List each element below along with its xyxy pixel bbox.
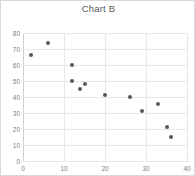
scatter-point xyxy=(128,95,132,99)
x-axis-tick-label: 0 xyxy=(14,165,32,173)
gridline-horizontal xyxy=(23,161,187,162)
scatter-point xyxy=(103,93,107,97)
x-axis-tick-label: 40 xyxy=(178,165,195,173)
scatter-point xyxy=(70,63,74,67)
scatter-point xyxy=(140,109,144,113)
scatter-point xyxy=(169,135,173,139)
y-axis-tick-label: 80 xyxy=(4,30,20,37)
y-axis-tick-label: 10 xyxy=(4,142,20,149)
gridline-vertical xyxy=(187,33,188,161)
chart-title: Chart B xyxy=(1,3,195,14)
scatter-point xyxy=(78,87,82,91)
gridline-vertical xyxy=(105,33,106,161)
y-axis-tick-label: 70 xyxy=(4,46,20,53)
y-axis-tick-label: 30 xyxy=(4,110,20,117)
x-axis-tick-label: 30 xyxy=(137,165,155,173)
y-axis-tick-labels: 01020304050607080 xyxy=(1,1,20,176)
scatter-point xyxy=(70,79,74,83)
scatter-point xyxy=(156,102,160,106)
x-axis-tick-label: 20 xyxy=(96,165,114,173)
y-axis-tick-label: 60 xyxy=(4,62,20,69)
scatter-point xyxy=(165,125,169,129)
y-axis-tick-label: 0 xyxy=(4,158,20,165)
scatter-point xyxy=(29,53,33,57)
scatter-point xyxy=(83,82,87,86)
plot-area xyxy=(23,33,187,161)
scatter-point xyxy=(46,41,50,45)
chart-container: Chart B 01020304050607080 010203040 xyxy=(0,0,195,176)
gridline-vertical xyxy=(64,33,65,161)
x-axis-tick-label: 10 xyxy=(55,165,73,173)
y-axis-tick-label: 40 xyxy=(4,94,20,101)
y-axis-tick-label: 50 xyxy=(4,78,20,85)
gridline-vertical xyxy=(146,33,147,161)
y-axis-tick-label: 20 xyxy=(4,126,20,133)
